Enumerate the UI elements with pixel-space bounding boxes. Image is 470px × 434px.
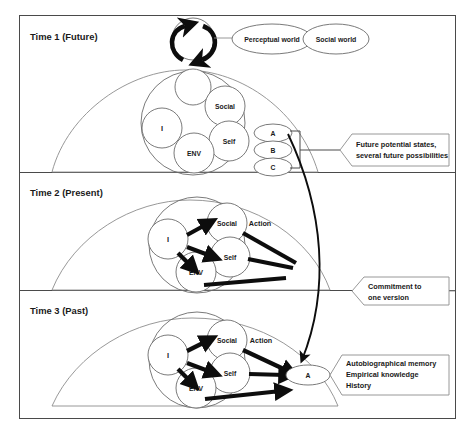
callout-future-line2: several future possibilities (356, 151, 448, 160)
panel-title-time3: Time 3 (Past) (30, 305, 88, 316)
callout-autobiographical-line3: History (346, 381, 372, 390)
callout-future-shape (340, 134, 449, 166)
social-world-label: Social world (316, 36, 357, 43)
callout-commitment: Commitment to one version (352, 277, 449, 305)
callout-commitment-line2: one version (368, 293, 409, 302)
node-env-label-time2: ENV (189, 269, 203, 276)
callout-commitment-line1: Commitment to (368, 282, 422, 291)
future-state-a-label: A (271, 130, 276, 137)
node-env-label-time3: ENV (189, 385, 203, 392)
node-self-label-time2: Self (224, 254, 237, 261)
action-arrow-self-time3 (249, 374, 285, 375)
future-state-b-label: B (271, 147, 276, 154)
timeline-self-diagram: Time 1 (Future) Perceptual world Social … (0, 0, 470, 434)
action-label-time3: Action (250, 336, 272, 345)
future-states-group: A B C (254, 124, 292, 176)
node-self-label-time3: Self (224, 370, 237, 377)
node-i-label-time3: I (167, 351, 169, 360)
node-env-label-time1: ENV (187, 150, 201, 157)
perceptual-world-label: Perceptual world (244, 36, 300, 44)
callout-autobiographical-line1: Autobiographical memory (346, 359, 437, 368)
world-ellipses: Perceptual world Social world (232, 24, 369, 54)
node-self-label-time1: Self (223, 138, 236, 145)
callout-autobiographical: Autobiographical memory Empirical knowle… (330, 355, 449, 395)
callout-future-potential: Future potential states, several future … (340, 134, 449, 166)
node-social-label-time3: Social (217, 337, 237, 344)
diagram-root: Time 1 (Future) Perceptual world Social … (0, 0, 470, 434)
callout-autobiographical-line2: Empirical knowledge (346, 370, 419, 379)
panel-time2: Time 2 (Present) I Social Self ENV Actio… (30, 187, 455, 305)
action-label-time2: Action (249, 219, 271, 228)
panel-title-time2: Time 2 (Present) (30, 187, 103, 198)
callout-future-line1: Future potential states, (356, 140, 436, 149)
panel-time1: Time 1 (Future) Perceptual world Social … (30, 18, 449, 176)
future-state-c-label: C (271, 164, 276, 171)
panel-title-time1: Time 1 (Future) (30, 31, 98, 42)
node-i-label-time2: I (167, 235, 169, 244)
node-social-label-time2: Social (217, 220, 237, 227)
committed-state-a-label: A (306, 372, 311, 379)
node-social-label-time1: Social (215, 103, 235, 110)
panel-time3: Time 3 (Past) I Social Self ENV Action (30, 305, 449, 408)
node-i-label-time1: I (161, 124, 163, 133)
